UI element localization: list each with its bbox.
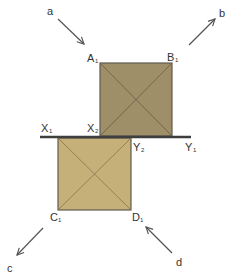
bottom-square: [58, 138, 131, 210]
label-d: d: [176, 256, 182, 268]
label-Y1: Y 1: [185, 141, 197, 153]
label-b: b: [219, 7, 225, 19]
svg-text:1: 1: [193, 147, 197, 153]
arrow-a-icon: [58, 19, 84, 44]
label-Y2: Y 2: [133, 141, 145, 153]
svg-text:Y: Y: [185, 141, 193, 153]
svg-text:1: 1: [95, 58, 99, 64]
arrow-d-icon: [146, 227, 172, 253]
svg-text:1: 1: [140, 217, 144, 223]
svg-text:2: 2: [95, 128, 99, 134]
arrow-b-icon: [189, 19, 215, 45]
svg-text:X: X: [41, 122, 49, 134]
arrow-c-icon: [17, 228, 43, 255]
label-X2: X 2: [87, 122, 99, 134]
svg-text:D: D: [132, 211, 140, 223]
svg-text:Y: Y: [133, 141, 141, 153]
label-C1: C 1: [50, 211, 62, 223]
label-a: a: [47, 5, 54, 17]
svg-text:1: 1: [175, 57, 179, 63]
label-D1: D 1: [132, 211, 144, 223]
label-c: c: [7, 262, 13, 274]
svg-text:1: 1: [58, 217, 62, 223]
svg-text:X: X: [87, 122, 95, 134]
top-square: [100, 63, 172, 136]
label-X1: X 1: [41, 122, 53, 134]
svg-text:B: B: [167, 51, 174, 63]
projection-diagram: a b c d A 1 B 1 X 1 X 2 Y 2 Y 1 C 1 D 1: [0, 0, 236, 276]
svg-text:C: C: [50, 211, 58, 223]
svg-text:1: 1: [49, 128, 53, 134]
label-A1: A 1: [87, 52, 99, 64]
label-B1: B 1: [167, 51, 179, 63]
svg-text:2: 2: [141, 147, 145, 153]
svg-text:A: A: [87, 52, 95, 64]
